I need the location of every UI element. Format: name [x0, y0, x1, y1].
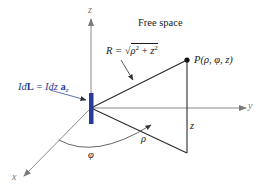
r-vector-line — [91, 60, 187, 108]
element-eq: = — [34, 81, 45, 92]
rho-line — [91, 108, 187, 153]
rho-segment-label: ρ — [141, 134, 146, 145]
x-axis — [24, 108, 91, 176]
plus-sign: + — [139, 45, 150, 56]
sqrt-radicand: ρ2 + z2 — [131, 43, 158, 56]
element-rhs: Idz — [45, 81, 60, 92]
r-formula-label: R = √ρ2 + z2 — [106, 45, 158, 57]
x-axis-label: x — [12, 172, 16, 182]
r-prefix: R = — [106, 45, 125, 56]
element-lhs: Id — [18, 81, 27, 92]
element-vector: L — [27, 81, 34, 92]
element-unit-sub: z — [66, 86, 69, 94]
current-element-label: IdL = Idz az — [18, 82, 68, 94]
point-p-dot — [184, 57, 189, 62]
z-axis-label: z — [88, 5, 92, 15]
y-axis-label: y — [248, 101, 252, 111]
z-exponent: 2 — [154, 44, 158, 52]
field-geometry-diagram — [0, 0, 260, 192]
phi-angle-label: φ — [88, 150, 94, 161]
free-space-label: Free space — [138, 18, 183, 29]
point-p-label: P(ρ, φ, z) — [194, 55, 233, 66]
z-segment-label: z — [190, 121, 194, 132]
r-label-leader — [121, 60, 133, 80]
phi-angle-arc — [59, 125, 151, 147]
current-element-bar — [89, 93, 94, 124]
